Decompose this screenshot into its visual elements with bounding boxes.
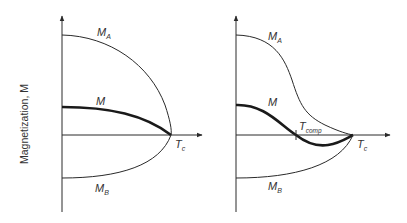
right-m-label: M: [268, 96, 278, 108]
left-mb-label: MB: [95, 182, 109, 196]
right-ma-label: MA: [268, 30, 282, 44]
magnetization-diagram: Magnetization, M MA M MB Tc MA M MB Tcom…: [0, 0, 407, 223]
left-panel: MA M MB Tc: [62, 16, 202, 212]
y-axis-label: Magnetization, M: [18, 84, 30, 164]
right-panel: MA M MB Tcomp Tc: [236, 16, 390, 212]
right-m-curve: [236, 105, 353, 145]
left-m-label: M: [96, 95, 106, 107]
right-tc-label: Tc: [357, 138, 368, 152]
right-ma-curve: [236, 35, 353, 135]
left-m-curve: [62, 107, 171, 135]
right-mb-curve: [236, 135, 353, 178]
right-mb-label: MB: [268, 180, 282, 194]
left-ma-label: MA: [97, 26, 111, 40]
left-tc-label: Tc: [175, 138, 186, 152]
tcomp-label: Tcomp: [299, 120, 322, 135]
left-mb-curve: [62, 135, 171, 178]
left-ma-curve: [62, 35, 171, 135]
